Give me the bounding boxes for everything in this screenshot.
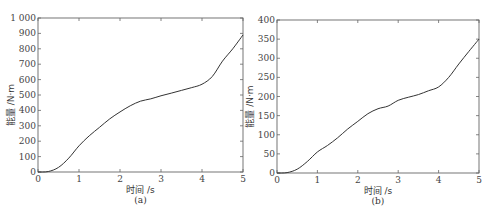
y-tick-label: 600 (19, 75, 36, 85)
x-tick-label: 5 (240, 174, 246, 184)
y-tick-label: 250 (258, 72, 275, 82)
y-tick-label: 300 (258, 53, 275, 63)
x-tick-label: 2 (355, 175, 361, 185)
x-tick-label: 0 (274, 175, 280, 185)
x-axis-label: 时间 /s (364, 185, 393, 196)
x-tick-label: 4 (436, 175, 442, 185)
x-tick-label: 2 (117, 174, 123, 184)
x-tick-label: 1 (315, 175, 321, 185)
energy-curve (38, 35, 243, 172)
x-tick-label: 3 (158, 174, 164, 184)
y-tick-label: 400 (19, 105, 36, 115)
y-tick-label: 1 000 (10, 13, 36, 23)
plot-frame (38, 18, 243, 172)
y-tick-label: 100 (19, 152, 36, 162)
x-tick-label: 3 (395, 175, 401, 185)
y-axis-ticks: 050100150200250300350400 (258, 15, 479, 178)
x-tick-label: 0 (35, 174, 41, 184)
y-tick-label: 800 (19, 44, 36, 54)
x-tick-label: 5 (476, 175, 482, 185)
y-tick-label: 100 (258, 130, 275, 140)
x-tick-label: 4 (199, 174, 205, 184)
figure-canvas: 01002003004005006007008009001 000 012345… (0, 0, 488, 214)
y-tick-label: 400 (258, 15, 275, 25)
plot-area (277, 20, 479, 173)
y-axis-label: 能量 /N·m (244, 85, 255, 127)
y-tick-label: 50 (264, 149, 276, 159)
y-tick-label: 900 (19, 28, 36, 38)
plot-area (38, 18, 243, 172)
y-axis-label: 能量 /N·m (5, 84, 16, 126)
chart-panel-a: 01002003004005006007008009001 000 012345… (5, 13, 246, 205)
y-tick-label: 500 (19, 90, 36, 100)
x-axis-label: 时间 /s (126, 184, 155, 195)
panel-caption: (a) (134, 195, 146, 205)
panel-caption: (b) (372, 196, 385, 206)
x-tick-label: 1 (76, 174, 82, 184)
y-tick-label: 200 (258, 92, 275, 102)
y-tick-label: 200 (19, 136, 36, 146)
y-tick-label: 350 (258, 34, 275, 44)
chart-panel-b: 050100150200250300350400 012345 时间 /s 能量… (244, 15, 482, 206)
y-axis-ticks: 01002003004005006007008009001 000 (10, 13, 243, 177)
y-tick-label: 300 (19, 121, 36, 131)
y-tick-label: 150 (258, 111, 275, 121)
plot-frame (277, 20, 479, 173)
x-axis-ticks: 012345 (274, 20, 482, 185)
energy-curve (277, 39, 479, 173)
y-tick-label: 700 (19, 59, 36, 69)
